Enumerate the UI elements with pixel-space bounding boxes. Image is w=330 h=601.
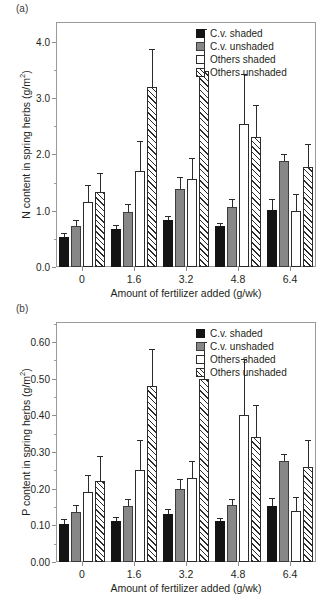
bar — [267, 210, 277, 267]
legend-label: C.v. unshaded — [210, 341, 274, 353]
x-tick-label: 3.2 — [179, 568, 194, 580]
error-bar-cap — [189, 158, 195, 159]
y-tick-minor — [54, 183, 57, 184]
x-tick-mark — [290, 562, 291, 566]
y-tick-minor — [54, 70, 57, 71]
x-tick-label: 6.4 — [283, 273, 298, 285]
error-bar — [296, 497, 297, 511]
error-bar — [244, 74, 245, 124]
bar — [227, 207, 237, 267]
error-bar-cap — [85, 475, 91, 476]
error-bar-cap — [137, 440, 143, 441]
legend-label: Others shaded — [210, 354, 276, 366]
error-bar — [88, 185, 89, 202]
y-tick-mark — [52, 489, 56, 490]
error-bar-cap — [229, 499, 235, 500]
error-bar-cap — [269, 498, 275, 499]
bar — [95, 192, 105, 267]
bar — [123, 506, 133, 562]
y-tick-minor — [54, 470, 57, 471]
x-tick-mark — [82, 267, 83, 271]
y-tick-minor — [54, 126, 57, 127]
bar — [175, 189, 185, 267]
panel-b-x-axis-label: Amount of fertilizer added (g/wk) — [56, 582, 316, 594]
error-bar — [192, 158, 193, 179]
y-axis-label-tail: ) — [20, 368, 32, 372]
bar — [291, 511, 301, 562]
legend-item: Others shaded — [196, 54, 287, 66]
panel-b-legend: C.v. shadedC.v. unshadedOthers shadedOth… — [196, 328, 287, 380]
error-bar — [296, 194, 297, 210]
y-tick-mark — [52, 379, 56, 380]
bar — [187, 478, 197, 562]
panel-a-y-axis-label: N content in spring herbs (g/m2) — [18, 22, 32, 267]
y-tick-label: 0.30 — [20, 447, 50, 458]
error-bar-cap — [165, 216, 171, 217]
x-tick-mark — [238, 562, 239, 566]
legend-item: C.v. shaded — [196, 328, 287, 340]
y-tick-label: 1.0 — [20, 205, 50, 216]
error-bar-cap — [281, 454, 287, 455]
error-bar-cap — [293, 497, 299, 498]
error-bar — [256, 105, 257, 138]
panel-a-label: (a) — [16, 3, 28, 14]
y-tick-label: 0.0 — [20, 262, 50, 273]
error-bar-cap — [293, 194, 299, 195]
bar — [163, 220, 173, 267]
bar — [199, 71, 209, 267]
y-tick-mark — [52, 98, 56, 99]
bar — [175, 489, 185, 562]
error-bar — [180, 479, 181, 489]
legend-swatch-hatch — [196, 68, 205, 77]
y-tick-minor — [54, 397, 57, 398]
bar — [239, 124, 249, 267]
bar — [71, 226, 81, 267]
legend-label: C.v. shaded — [210, 28, 263, 40]
error-bar — [100, 173, 101, 192]
legend-item: C.v. unshaded — [196, 341, 287, 353]
y-tick-label: 0.50 — [20, 373, 50, 384]
y-axis-label-exponent: 2 — [18, 74, 27, 78]
error-bar — [100, 456, 101, 481]
bar — [215, 521, 225, 562]
y-tick-label: 2.0 — [20, 149, 50, 160]
error-bar — [128, 499, 129, 506]
bar — [303, 167, 313, 267]
bar — [83, 492, 93, 562]
error-bar-cap — [97, 456, 103, 457]
error-bar-cap — [61, 519, 67, 520]
error-bar — [284, 154, 285, 161]
legend-swatch-gray — [196, 342, 205, 351]
error-bar-cap — [149, 349, 155, 350]
error-bar-cap — [73, 220, 79, 221]
y-tick-label: 0.00 — [20, 557, 50, 568]
x-tick-mark — [186, 562, 187, 566]
panel-b-label: (b) — [16, 303, 28, 314]
error-bar-cap — [125, 499, 131, 500]
error-bar-cap — [73, 505, 79, 506]
x-tick-label: 4.8 — [231, 568, 246, 580]
bar — [215, 226, 225, 267]
bar — [251, 437, 261, 562]
y-tick-minor — [54, 544, 57, 545]
panel-a-legend: C.v. shadedC.v. unshadedOthers shadedOth… — [196, 28, 287, 80]
legend-label: Others unshaded — [210, 367, 287, 379]
bar — [59, 524, 69, 562]
panel-a-x-axis-label: Amount of fertilizer added (g/wk) — [56, 287, 316, 299]
error-bar-cap — [217, 518, 223, 519]
y-tick-mark — [52, 267, 56, 268]
y-tick-mark — [52, 42, 56, 43]
x-tick-label: 1.6 — [127, 568, 142, 580]
y-tick-label: 4.0 — [20, 36, 50, 47]
error-bar — [308, 144, 309, 167]
error-bar-cap — [137, 141, 143, 142]
x-tick-mark — [134, 267, 135, 271]
legend-item: Others unshaded — [196, 367, 287, 379]
error-bar — [284, 454, 285, 461]
x-tick-mark — [134, 562, 135, 566]
y-tick-label: 3.0 — [20, 93, 50, 104]
error-bar — [192, 461, 193, 478]
error-bar — [256, 405, 257, 438]
error-bar-cap — [189, 461, 195, 462]
error-bar-cap — [253, 105, 259, 106]
